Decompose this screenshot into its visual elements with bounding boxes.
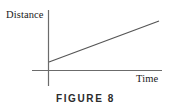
data-line-distance-vs-time [49,21,159,62]
y-axis-label: Distance [6,9,44,20]
figure-container: Distance Time FIGURE 8 [0,0,171,110]
x-axis-label: Time [136,73,158,84]
figure-caption: FIGURE 8 [0,93,171,104]
